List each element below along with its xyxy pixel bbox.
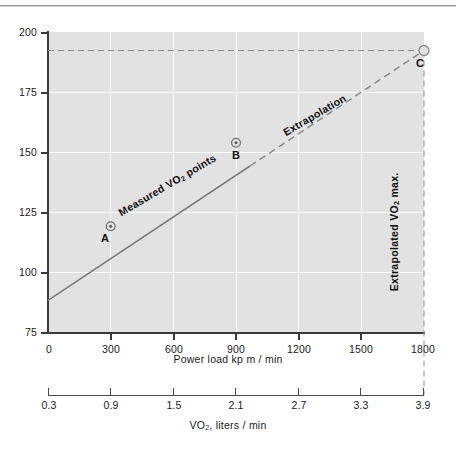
secondary-tick-label-0-3: 0.3 xyxy=(19,400,79,411)
y-tick-mark-75 xyxy=(41,332,48,334)
gridline-horizontal-175 xyxy=(48,92,424,93)
y-tick-mark-100 xyxy=(41,272,48,274)
y-tick-mark-125 xyxy=(41,212,48,214)
secondary-tick-mark-1-5 xyxy=(173,388,174,396)
x-tick-mark-1500 xyxy=(360,333,362,340)
secondary-axis-title: VO2, liters / min xyxy=(0,419,456,432)
data-point-label-b: B xyxy=(232,149,240,161)
secondary-tick-label-2-1: 2.1 xyxy=(206,400,266,411)
y-tick-label-150: 150 xyxy=(4,147,37,157)
gridline-vertical-1500 xyxy=(361,32,362,333)
x-tick-mark-300 xyxy=(110,333,112,340)
secondary-tick-label-1-5: 1.5 xyxy=(144,400,204,411)
secondary-tick-mark-2-7 xyxy=(298,388,299,396)
gridline-vertical-300 xyxy=(110,32,111,333)
secondary-tick-mark-3-3 xyxy=(360,388,361,396)
y-tick-label-200: 200 xyxy=(4,27,37,37)
gridline-vertical-900 xyxy=(236,32,237,333)
y-tick-label-175: 175 xyxy=(4,87,37,97)
x-tick-mark-900 xyxy=(235,333,237,340)
secondary-tick-label-3-3: 3.3 xyxy=(331,400,391,411)
y-axis-line xyxy=(47,31,49,334)
y-tick-mark-175 xyxy=(41,92,48,94)
secondary-tick-label-2-7: 2.7 xyxy=(269,400,329,411)
y-tick-label-75: 75 xyxy=(4,327,37,337)
annotation-extrapolated-vo2-max: Extrapolated VO2 max. xyxy=(388,172,401,291)
data-point-label-c: C xyxy=(416,57,424,69)
secondary-tick-label-3-9: 3.9 xyxy=(393,400,453,411)
gridline-vertical-1200 xyxy=(298,32,299,333)
top-divider-rule xyxy=(0,5,456,7)
x-tick-mark-600 xyxy=(173,333,175,340)
y-tick-mark-150 xyxy=(41,152,48,154)
secondary-tick-mark-0-3 xyxy=(48,388,49,396)
x-axis-title: Power load kp m / min xyxy=(0,353,456,365)
y-tick-label-125: 125 xyxy=(4,207,37,217)
y-axis-labels: 200 175 150 125 100 75 xyxy=(0,0,37,456)
plot-area xyxy=(48,32,424,333)
gridline-horizontal-125 xyxy=(48,212,424,213)
y-tick-mark-200 xyxy=(41,32,48,34)
secondary-tick-mark-2-1 xyxy=(235,388,236,396)
secondary-tick-mark-3-9 xyxy=(423,388,424,396)
data-point-label-a: A xyxy=(101,232,109,244)
y-tick-label-100: 100 xyxy=(4,267,37,277)
secondary-tick-label-0-9: 0.9 xyxy=(81,400,141,411)
secondary-tick-mark-0-9 xyxy=(110,388,111,396)
vo2-max-extrapolation-figure: Measured VO2 points Extrapolation Extrap… xyxy=(0,0,456,456)
x-tick-mark-1200 xyxy=(298,333,300,340)
gridline-horizontal-100 xyxy=(48,272,424,273)
